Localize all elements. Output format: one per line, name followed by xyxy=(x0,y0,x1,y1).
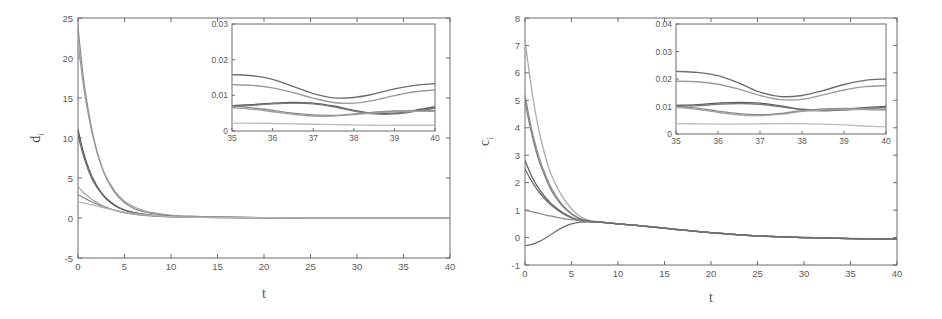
y-tick-label: 20 xyxy=(62,53,73,64)
x-tick-label: 20 xyxy=(259,261,270,272)
inset-x-tick-label: 39 xyxy=(839,136,849,146)
y-tick-label: 6 xyxy=(515,67,520,78)
y-axis-label: ci xyxy=(477,137,495,146)
inset-x-tick-label: 36 xyxy=(268,133,278,143)
x-tick-label: 0 xyxy=(522,268,527,279)
data-series-line xyxy=(525,169,897,239)
y-axis-label: di xyxy=(28,133,46,143)
inset-x-tick-label: 37 xyxy=(308,133,318,143)
y-tick-label: 1 xyxy=(515,205,520,216)
y-axis-label-text: di xyxy=(28,133,46,143)
inset-y-axis-ticks: 00.010.020.03 xyxy=(211,19,235,136)
x-tick-label: 15 xyxy=(212,261,223,272)
y-axis-label-main: d xyxy=(28,136,43,143)
x-tick-label: 40 xyxy=(445,261,456,272)
y-axis-label-subscript: i xyxy=(485,137,495,140)
inset-y-tick-label: 0.01 xyxy=(655,102,672,112)
y-tick-label: 5 xyxy=(515,95,520,106)
y-tick-label: 4 xyxy=(515,122,520,133)
inset-x-tick-label: 35 xyxy=(227,133,237,143)
data-series-line xyxy=(525,161,897,239)
y-tick-label: 8 xyxy=(515,13,520,24)
x-tick-label: 35 xyxy=(845,268,856,279)
inset-x-tick-label: 35 xyxy=(671,136,681,146)
x-tick-label: 35 xyxy=(398,261,409,272)
x-tick-label: 20 xyxy=(706,268,717,279)
inset-y-tick-label: 0 xyxy=(667,129,672,139)
x-tick-label: 10 xyxy=(613,268,624,279)
x-tick-label: 40 xyxy=(892,268,903,279)
inset-y-axis-ticks: 00.010.020.030.04 xyxy=(655,19,679,139)
inset-y-tick-label: 0.03 xyxy=(655,47,672,57)
y-axis-label-text: ci xyxy=(477,137,495,146)
y-tick-label: 3 xyxy=(515,150,520,161)
x-tick-label: 5 xyxy=(569,268,574,279)
inset-y-tick-label: 0.04 xyxy=(655,19,672,29)
data-series-line xyxy=(78,135,450,218)
x-tick-label: 10 xyxy=(166,261,177,272)
y-tick-label: 15 xyxy=(62,93,73,104)
chart-panel-right: 0510152025303540 -1012345678 35363738394… xyxy=(471,0,942,319)
inset-axes-right: 353637383940 00.010.020.030.04 xyxy=(655,19,891,146)
y-tick-label: 2 xyxy=(515,177,520,188)
x-tick-label: 30 xyxy=(352,261,363,272)
y-axis-label-subscript: i xyxy=(36,133,46,136)
inset-x-tick-label: 40 xyxy=(881,136,891,146)
x-tick-label: 0 xyxy=(75,261,80,272)
y-tick-label: -5 xyxy=(65,253,73,264)
y-tick-label: 5 xyxy=(68,173,73,184)
y-tick-label: -1 xyxy=(512,260,520,271)
x-tick-label: 30 xyxy=(799,268,810,279)
x-tick-label: 15 xyxy=(659,268,670,279)
x-axis-label: t xyxy=(709,290,713,305)
y-tick-label: 0 xyxy=(68,213,73,224)
inset-axes-left: 353637383940 00.010.020.03 xyxy=(211,19,440,143)
y-tick-label: 0 xyxy=(515,232,520,243)
inset-y-tick-label: 0.02 xyxy=(211,55,228,65)
y-tick-label: 7 xyxy=(515,40,520,51)
inset-x-tick-label: 36 xyxy=(713,136,723,146)
chart-svg-left: 0510152025303540 -50510152025 3536373839… xyxy=(0,0,471,319)
y-tick-label: 10 xyxy=(62,133,73,144)
chart-panel-left: 0510152025303540 -50510152025 3536373839… xyxy=(0,0,471,319)
x-axis-label: t xyxy=(262,286,266,301)
inset-background xyxy=(676,24,886,134)
y-tick-label: 25 xyxy=(62,13,73,24)
inset-y-tick-label: 0.03 xyxy=(211,19,228,29)
x-tick-label: 25 xyxy=(752,268,763,279)
inset-x-tick-label: 37 xyxy=(755,136,765,146)
inset-y-tick-label: 0.01 xyxy=(211,90,228,100)
inset-x-tick-label: 38 xyxy=(349,133,359,143)
x-tick-label: 5 xyxy=(122,261,127,272)
data-series-line xyxy=(525,210,897,239)
x-tick-label: 25 xyxy=(305,261,316,272)
inset-x-tick-label: 38 xyxy=(797,136,807,146)
data-series-line xyxy=(525,222,897,246)
inset-y-tick-label: 0.02 xyxy=(655,74,672,84)
data-series-line xyxy=(78,202,450,218)
figure-container: 0510152025303540 -50510152025 3536373839… xyxy=(0,0,942,319)
inset-x-tick-label: 40 xyxy=(430,133,440,143)
inset-y-tick-label: 0 xyxy=(223,126,228,136)
inset-x-tick-label: 39 xyxy=(390,133,400,143)
chart-svg-right: 0510152025303540 -1012345678 35363738394… xyxy=(471,0,942,319)
